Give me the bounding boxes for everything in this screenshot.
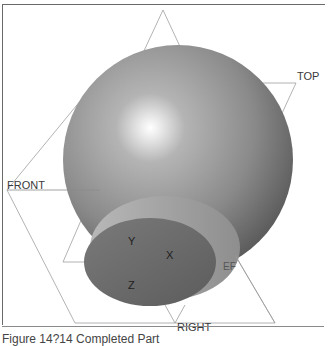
caption-divider — [2, 326, 324, 327]
axis-label-x: X — [166, 250, 173, 261]
disk-face — [84, 218, 216, 306]
plane-label-right: RIGHT — [177, 322, 211, 333]
plane-label-partial: EF — [223, 262, 236, 272]
axis-label-z: Z — [128, 280, 135, 291]
plane-label-front: FRONT — [7, 180, 45, 191]
model-viewport — [0, 0, 328, 330]
figure-caption: Figure 14?14 Completed Part — [2, 332, 159, 346]
plane-label-top: TOP — [297, 71, 319, 82]
axis-label-y: Y — [128, 236, 135, 247]
